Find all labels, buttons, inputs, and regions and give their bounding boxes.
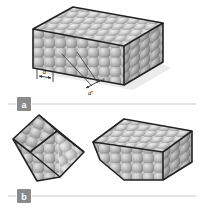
- plane-label: d′: [88, 89, 94, 97]
- spacing-label: d: [43, 68, 47, 76]
- crystal-block-figure: d d′ θ a: [0, 0, 202, 213]
- panel-b-letter: b: [21, 192, 27, 202]
- angle-label: θ: [101, 76, 105, 84]
